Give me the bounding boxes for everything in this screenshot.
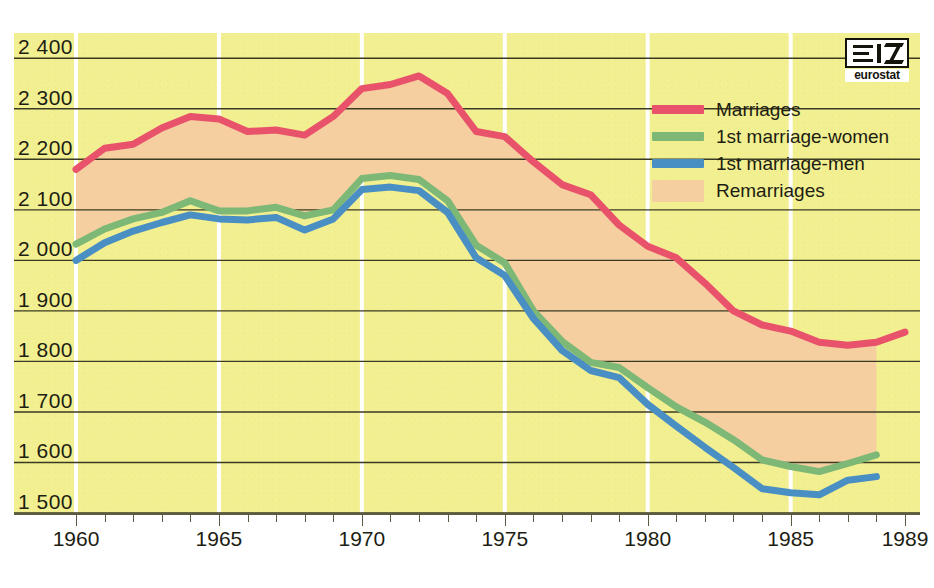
x-tick-label: 1985: [767, 528, 814, 549]
x-tick: [819, 514, 820, 522]
x-tick: [162, 514, 163, 522]
legend-swatch-line: [652, 159, 704, 168]
x-tick: [762, 514, 763, 522]
x-tick: [219, 514, 220, 526]
x-tick-label: 1960: [53, 528, 100, 549]
x-tick: [333, 514, 334, 522]
legend-item: Marriages: [652, 96, 912, 123]
legend-item: Remarriages: [652, 177, 912, 204]
y-tick-label: 1 800: [18, 339, 73, 360]
x-tick: [562, 514, 563, 522]
x-tick: [505, 514, 506, 526]
x-tick: [276, 514, 277, 522]
legend-swatch-line: [652, 105, 704, 114]
y-tick-label: 1 900: [18, 289, 73, 310]
x-tick: [705, 514, 706, 522]
eurostat-logo: eurostat: [845, 38, 909, 82]
x-tick: [362, 514, 363, 526]
x-tick: [476, 514, 477, 522]
legend-label: Marriages: [716, 100, 800, 119]
legend-swatch-line: [652, 132, 704, 141]
x-tick: [448, 514, 449, 522]
x-tick: [133, 514, 134, 522]
x-tick: [248, 514, 249, 522]
x-tick: [76, 514, 77, 526]
x-tick: [791, 514, 792, 526]
chart-screenshot: 1 5001 6001 7001 8001 9002 0002 1002 200…: [0, 0, 934, 588]
x-tick-label: 1975: [481, 528, 528, 549]
x-tick: [876, 514, 877, 522]
legend-label: 1st marriage-men: [716, 154, 865, 173]
x-tick: [848, 514, 849, 522]
legend-item: 1st marriage-men: [652, 150, 912, 177]
y-tick-label: 2 300: [18, 87, 73, 108]
legend-label: Remarriages: [716, 181, 825, 200]
y-tick-label: 1 700: [18, 390, 73, 411]
x-tick: [305, 514, 306, 522]
y-tick-label: 2 000: [18, 238, 73, 259]
y-tick-label: 1 500: [18, 491, 73, 512]
eurostat-logo-text: eurostat: [845, 69, 909, 82]
x-tick: [190, 514, 191, 522]
x-tick: [591, 514, 592, 522]
x-tick-label: 1980: [624, 528, 671, 549]
y-tick-label: 2 400: [18, 36, 73, 57]
x-tick: [619, 514, 620, 522]
x-tick: [390, 514, 391, 522]
x-tick: [733, 514, 734, 522]
x-tick-label: 1970: [339, 528, 386, 549]
x-tick: [905, 514, 906, 526]
x-tick-label: 1965: [196, 528, 243, 549]
y-tick-label: 1 600: [18, 440, 73, 461]
legend-item: 1st marriage-women: [652, 123, 912, 150]
x-tick: [533, 514, 534, 522]
x-tick: [419, 514, 420, 522]
x-tick-label: 1989: [882, 528, 929, 549]
eurostat-logo-mark: [845, 38, 909, 68]
y-tick-label: 2 200: [18, 137, 73, 158]
x-axis-line: [14, 513, 920, 515]
legend: Marriages1st marriage-women1st marriage-…: [652, 96, 912, 204]
x-tick: [105, 514, 106, 522]
legend-swatch-block: [652, 180, 704, 202]
y-tick-label: 2 100: [18, 188, 73, 209]
x-tick: [648, 514, 649, 526]
x-tick: [676, 514, 677, 522]
legend-label: 1st marriage-women: [716, 127, 889, 146]
